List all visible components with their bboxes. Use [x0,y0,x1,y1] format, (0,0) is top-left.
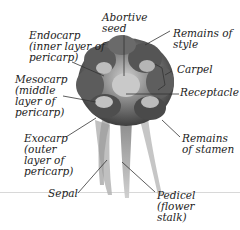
label-carpel: Carpel [177,64,213,75]
label-remains-of-style: Remains of style [173,28,232,50]
label-receptacle: Receptacle [180,87,239,98]
label-sepal: Sepal [48,188,78,199]
label-pedicel: Pedicel (flower stalk) [157,190,195,223]
label-abortive-seed: Abortive seed [102,12,147,34]
diagram-canvas: Endocarp (inner layer of pericarp) Mesoc… [0,0,240,230]
label-endocarp: Endocarp (inner layer of pericarp) [29,30,105,63]
label-mesocarp: Mesocarp (middle layer of pericarp) [15,74,68,118]
label-remains-of-stamen: Remains of stamen [182,133,234,155]
label-exocarp: Exocarp (outer layer of pericarp) [24,133,73,177]
